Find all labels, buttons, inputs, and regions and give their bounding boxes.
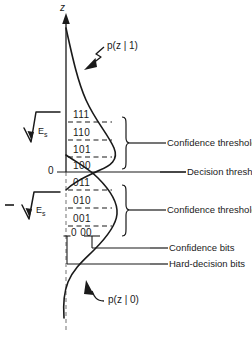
annotation-decision-threshold: Decision threshold <box>187 167 252 177</box>
z-axis-label: z <box>60 3 65 13</box>
quantization-code-100: 100 <box>73 161 91 171</box>
pointer-upper-density <box>84 47 104 70</box>
lower-amplitude-level-mark <box>5 192 60 219</box>
quantization-code-001: 001 <box>73 214 91 224</box>
upper-amplitude-subscript: s <box>44 131 48 138</box>
quantization-code-000: 0 00 <box>71 228 92 238</box>
brace-confidence-upper <box>122 117 152 169</box>
annotation-confidence-threshold-upper: Confidence threshold <box>167 138 252 148</box>
brace-confidence-lower <box>122 185 152 236</box>
pointer-lower-density <box>84 280 104 301</box>
quantization-code-011: 011 <box>73 178 90 188</box>
annotation-confidence-bits: Confidence bits <box>169 243 234 253</box>
origin-label: 0 <box>48 166 54 176</box>
quantization-code-110: 110 <box>73 128 90 138</box>
bit-group-brackets <box>64 236 151 264</box>
upper-amplitude-label: Es <box>38 127 48 138</box>
lower-density-label: p(z | 0) <box>108 295 139 305</box>
pointer-lower-density-arrowhead <box>84 280 94 295</box>
lower-amplitude-label: Es <box>36 206 46 217</box>
pointer-upper-density-arrowhead <box>84 58 97 70</box>
annotation-hard-decision-bits: Hard-decision bits <box>169 259 245 269</box>
annotation-confidence-threshold-lower: Confidence threshold <box>167 205 252 215</box>
quantization-code-111: 111 <box>73 110 89 120</box>
lower-amplitude-subscript: s <box>42 210 46 217</box>
upper-density-label: p(z | 1) <box>107 41 138 51</box>
quantization-code-101: 101 <box>73 145 91 155</box>
soft-decision-quantization-figure: z 0 p(z | 1) p(z | 0) Es Es 111 110 101 … <box>0 0 252 339</box>
quantization-code-010: 010 <box>73 196 91 206</box>
